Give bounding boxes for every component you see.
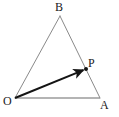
geometry-figure: B O A P xyxy=(0,0,119,117)
vertex-label-a: A xyxy=(100,99,109,111)
point-label-p: P xyxy=(88,57,95,69)
vector-op-arrow xyxy=(15,70,83,98)
vertex-label-b: B xyxy=(55,1,63,13)
vertex-label-o: O xyxy=(3,95,12,107)
triangle-side-ob xyxy=(15,16,60,98)
